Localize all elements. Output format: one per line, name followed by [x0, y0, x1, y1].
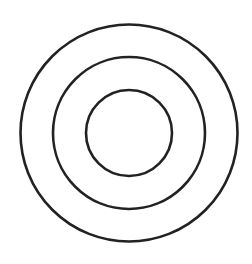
middle-ring	[53, 57, 205, 209]
concentric-circles-diagram	[0, 0, 252, 264]
inner-ring	[86, 90, 172, 176]
